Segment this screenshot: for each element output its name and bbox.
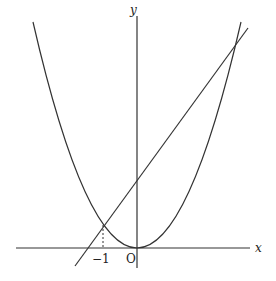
origin-label: O [126,252,136,266]
y-axis-label: y [129,3,137,17]
graph-canvas: y x O −1 [0,0,276,281]
straight-line [75,28,248,266]
x-axis-label: x [255,241,262,255]
tick-label-minus-1: −1 [92,252,110,266]
